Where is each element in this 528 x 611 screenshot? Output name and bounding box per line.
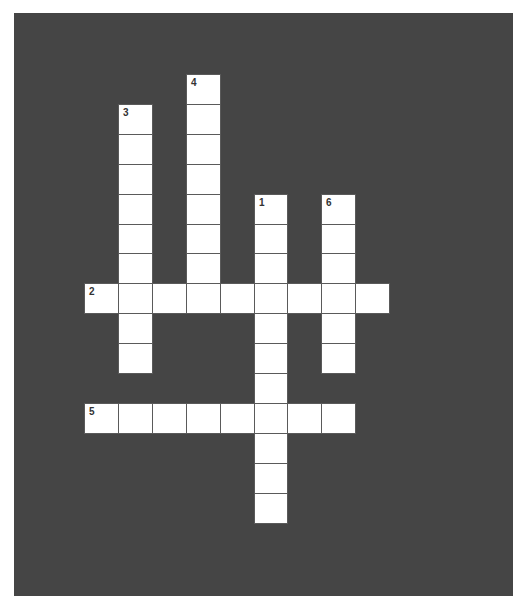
crossword-cell[interactable]: [254, 283, 288, 314]
clue-number: 3: [123, 108, 129, 118]
crossword-cell[interactable]: [186, 194, 221, 225]
crossword-cell[interactable]: 5: [84, 403, 119, 434]
crossword-cell[interactable]: [321, 283, 356, 314]
crossword-cell[interactable]: [118, 164, 153, 195]
crossword-cell[interactable]: [254, 403, 288, 434]
crossword-cell[interactable]: [118, 313, 153, 344]
clue-number: 4: [191, 78, 197, 88]
crossword-cell[interactable]: [254, 343, 288, 374]
crossword-cell[interactable]: [186, 224, 221, 254]
crossword-cell[interactable]: [254, 373, 288, 404]
crossword-cell[interactable]: [186, 403, 221, 434]
crossword-cell[interactable]: [118, 194, 153, 225]
crossword-cell[interactable]: [321, 253, 356, 284]
crossword-cell[interactable]: [321, 343, 356, 374]
crossword-cell[interactable]: [254, 224, 288, 254]
crossword-cell[interactable]: 1: [254, 194, 288, 225]
crossword-cell[interactable]: 4: [186, 74, 221, 105]
crossword-cell[interactable]: [186, 104, 221, 135]
crossword-cell[interactable]: [152, 283, 187, 314]
crossword-cell[interactable]: [118, 343, 153, 374]
crossword-cell[interactable]: 6: [321, 194, 356, 225]
crossword-cell[interactable]: [321, 313, 356, 344]
crossword-cell[interactable]: [254, 313, 288, 344]
crossword-cell[interactable]: [321, 403, 356, 434]
clue-number: 2: [89, 287, 95, 297]
crossword-cell[interactable]: [118, 253, 153, 284]
clue-number: 1: [259, 198, 265, 208]
crossword-cell[interactable]: [220, 283, 255, 314]
crossword-cell[interactable]: [186, 134, 221, 165]
crossword-cell[interactable]: 2: [84, 283, 119, 314]
crossword-cell[interactable]: [220, 403, 255, 434]
crossword-cell[interactable]: [186, 253, 221, 284]
crossword-cell[interactable]: [118, 224, 153, 254]
crossword-cell[interactable]: [254, 253, 288, 284]
crossword-cell[interactable]: [321, 224, 356, 254]
crossword-cell[interactable]: [355, 283, 390, 314]
crossword-cell[interactable]: [254, 433, 288, 464]
clue-number: 5: [89, 407, 95, 417]
crossword-cell[interactable]: [118, 403, 153, 434]
crossword-cell[interactable]: [118, 283, 153, 314]
crossword-cell[interactable]: [118, 134, 153, 165]
crossword-cell[interactable]: [254, 493, 288, 524]
crossword-cell[interactable]: [287, 403, 322, 434]
crossword-cell[interactable]: [152, 403, 187, 434]
crossword-cell[interactable]: [254, 463, 288, 494]
crossword-cell[interactable]: 3: [118, 104, 153, 135]
crossword-cell[interactable]: [186, 283, 221, 314]
clue-number: 6: [326, 198, 332, 208]
crossword-cell[interactable]: [287, 283, 322, 314]
crossword-cell[interactable]: [186, 164, 221, 195]
